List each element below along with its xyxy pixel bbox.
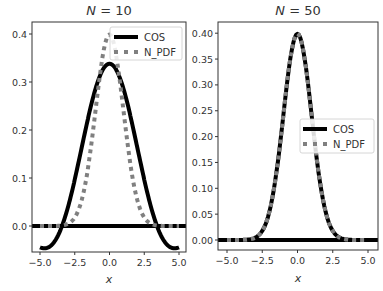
y-tick-label: 0.15 <box>192 157 213 168</box>
series-cos <box>40 64 179 249</box>
subplot-n10: N = 10 0.00.10.20.30.4 −5.0−2.50.02.55.0… <box>12 3 187 286</box>
x-axis-ticks: −5.0−2.50.02.55.0 <box>215 250 375 266</box>
x-tick-label: −5.0 <box>28 257 51 268</box>
y-axis-ticks: 0.00.10.20.30.4 <box>12 29 32 232</box>
y-tick-label: 0.3 <box>12 77 27 88</box>
legend-cos-label: COS <box>333 124 354 135</box>
y-tick-label: 0.0 <box>12 221 27 232</box>
legend-pdf-label: N_PDF <box>144 47 176 59</box>
x-tick-label: 0.0 <box>290 255 305 266</box>
legend-pdf-label: N_PDF <box>333 139 365 151</box>
y-tick-label: 0.35 <box>192 54 213 65</box>
x-tick-label: −2.5 <box>63 257 86 268</box>
y-tick-label: 0.25 <box>192 105 213 116</box>
x-axis-ticks: −5.0−2.50.02.55.0 <box>28 252 186 268</box>
y-tick-label: 0.40 <box>192 28 213 39</box>
subplot-title: N = 10 <box>86 3 131 18</box>
x-axis-label: x <box>105 273 113 286</box>
plot-area <box>32 35 186 249</box>
y-tick-label: 0.2 <box>12 125 27 136</box>
x-tick-label: 5.0 <box>360 255 375 266</box>
y-tick-label: 0.30 <box>192 79 213 90</box>
x-tick-label: 2.5 <box>325 255 340 266</box>
subplot-title: N = 50 <box>275 3 320 18</box>
x-tick-label: 2.5 <box>137 257 152 268</box>
y-tick-label: 0.1 <box>12 173 27 184</box>
x-axis-label: x <box>294 272 302 285</box>
y-tick-label: 0.00 <box>192 235 213 246</box>
subplot-n50: N = 50 0.000.050.100.150.200.250.300.350… <box>192 3 378 285</box>
y-axis-ticks: 0.000.050.100.150.200.250.300.350.40 <box>192 28 218 246</box>
x-tick-label: −2.5 <box>251 255 274 266</box>
legend: COS N_PDF <box>110 27 182 60</box>
x-tick-label: 5.0 <box>171 257 186 268</box>
y-tick-label: 0.10 <box>192 183 213 194</box>
x-tick-label: 0.0 <box>102 257 117 268</box>
y-tick-label: 0.05 <box>192 209 213 220</box>
x-tick-label: −5.0 <box>215 255 238 266</box>
y-tick-label: 0.4 <box>12 29 27 40</box>
legend: COS N_PDF <box>300 119 374 153</box>
y-tick-label: 0.20 <box>192 131 213 142</box>
legend-cos-label: COS <box>144 32 165 43</box>
figure: N = 10 0.00.10.20.30.4 −5.0−2.50.02.55.0… <box>0 0 383 291</box>
